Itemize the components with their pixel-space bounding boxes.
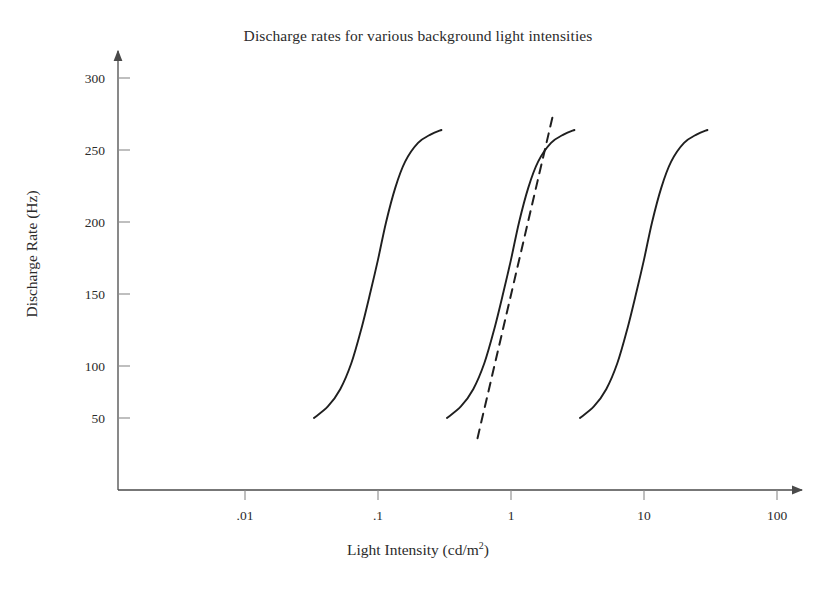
tangent-line xyxy=(478,111,554,438)
y-tick-label-250: 250 xyxy=(85,143,106,158)
y-tick-label-150: 150 xyxy=(85,287,106,302)
x-axis-label: Light Intensity (cd/m2) xyxy=(0,541,836,559)
x-tick-label-10: 10 xyxy=(637,508,651,523)
chart-figure: Discharge rates for various background l… xyxy=(0,0,836,590)
y-tick-label-100: 100 xyxy=(85,359,106,374)
x-axis-label-tail: ) xyxy=(484,541,489,558)
data-series-layer xyxy=(314,111,708,438)
y-tick-label-50: 50 xyxy=(92,411,106,426)
y-tick-marks xyxy=(118,78,130,418)
plot-area: 300 250 200 150 100 50 .01 .1 1 10 100 xyxy=(0,0,836,590)
x-tick-labels: .01 .1 1 10 100 xyxy=(237,508,788,523)
x-tick-label-1: 1 xyxy=(508,508,515,523)
curve-3 xyxy=(580,130,708,418)
x-tick-marks xyxy=(245,490,777,500)
curve-1 xyxy=(314,130,442,418)
y-axis-label: Discharge Rate (Hz) xyxy=(23,154,41,354)
x-tick-label-100: 100 xyxy=(767,508,788,523)
y-tick-labels: 300 250 200 150 100 50 xyxy=(85,71,106,426)
y-tick-label-200: 200 xyxy=(85,215,106,230)
y-tick-label-300: 300 xyxy=(85,71,106,86)
x-tick-label-0-01: .01 xyxy=(237,508,254,523)
curve-2 xyxy=(447,130,575,418)
x-tick-label-0-1: .1 xyxy=(373,508,383,523)
x-axis-label-main: Light Intensity (cd/m xyxy=(347,541,479,558)
